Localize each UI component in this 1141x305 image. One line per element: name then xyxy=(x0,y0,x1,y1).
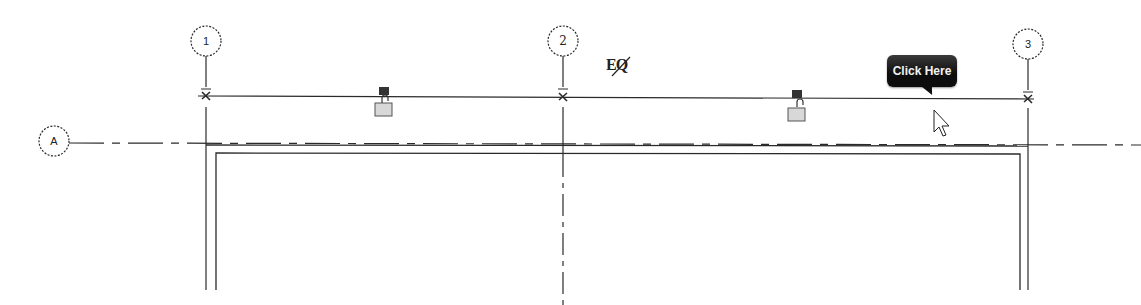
click-here-tooltip: Click Here xyxy=(887,55,957,87)
grid-line-2[interactable] xyxy=(548,26,578,305)
grid-label-2: 2 xyxy=(549,27,577,55)
cursor-arrow-icon xyxy=(934,110,949,136)
grid-line-a[interactable] xyxy=(39,126,1141,156)
grid-label-1: 1 xyxy=(192,27,220,55)
grid-label-3: 3 xyxy=(1014,30,1042,58)
lock-icon[interactable] xyxy=(375,87,392,116)
dimension-string[interactable] xyxy=(198,92,1034,103)
grid-line-3[interactable] xyxy=(1013,29,1043,290)
grid-label-a: A xyxy=(40,127,68,155)
lock-icon[interactable] xyxy=(788,90,805,121)
eq-toggle[interactable]: EQ xyxy=(606,56,627,74)
wall-outline[interactable] xyxy=(206,145,1028,290)
